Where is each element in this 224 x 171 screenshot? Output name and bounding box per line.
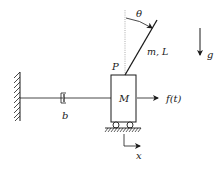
damper-b: b	[20, 93, 111, 121]
rod-label: m, L	[147, 46, 168, 57]
cart: M	[111, 75, 136, 128]
theta-label: θ	[136, 8, 142, 19]
inverted-pendulum-diagram: b M f(t) x	[0, 0, 224, 171]
theta-arc	[126, 18, 152, 28]
gravity-label: g	[207, 49, 213, 60]
pendulum: θ m, L P	[111, 8, 168, 75]
displacement-label: x	[136, 150, 142, 161]
displacement-arrow: x	[124, 134, 142, 161]
force-arrow: f(t)	[137, 93, 182, 104]
pivot-label: P	[111, 61, 119, 72]
wheel-right	[127, 122, 133, 128]
damper-label: b	[62, 110, 68, 121]
cart-mass-label: M	[118, 93, 130, 104]
fixed-wall	[14, 72, 20, 121]
wheel-left	[113, 122, 119, 128]
gravity-arrow: g	[200, 28, 213, 60]
force-label: f(t)	[165, 93, 182, 104]
ground-hatch	[105, 128, 141, 132]
